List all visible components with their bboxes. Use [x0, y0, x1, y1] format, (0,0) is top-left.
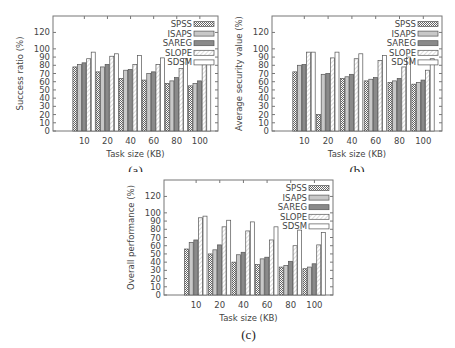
legend-label: ISAPS	[283, 193, 307, 203]
x-tick-label: 10	[191, 300, 202, 310]
bar-sareg-10	[194, 240, 198, 295]
legend-swatch-isaps	[194, 31, 214, 36]
x-tick-label: 100	[306, 300, 322, 310]
bar-sareg-10	[82, 63, 86, 131]
legend-label: SDSM	[391, 57, 416, 67]
legend-label: SAREG	[278, 202, 307, 212]
legend-swatch-slope	[194, 50, 214, 55]
bar-sareg-40	[128, 69, 132, 131]
legend-label: SAREG	[387, 38, 416, 48]
bar-sdsm-100	[207, 60, 211, 131]
bar-spss-100	[412, 84, 416, 131]
bar-spss-20	[208, 254, 212, 295]
y-axis-label: Success ratio (%)	[15, 37, 25, 111]
legend-label: SLOPE	[389, 48, 416, 58]
y-tick-label: 100	[145, 208, 161, 218]
bar-sdsm-20	[227, 220, 231, 295]
bar-spss-60	[364, 81, 368, 131]
bar-sareg-60	[373, 78, 377, 131]
x-tick-label: 60	[148, 136, 159, 146]
bar-sareg-40	[241, 252, 245, 295]
bar-slope-20	[330, 58, 334, 131]
x-tick-label: 20	[214, 300, 225, 310]
bar-sareg-20	[105, 64, 109, 131]
bar-sdsm-20	[114, 54, 118, 131]
x-tick-label: 60	[370, 136, 381, 146]
bar-spss-100	[303, 269, 307, 295]
bar-slope-10	[87, 59, 91, 131]
bar-sareg-100	[312, 264, 316, 295]
bar-isaps-60	[260, 259, 264, 295]
x-tick-label: 20	[102, 136, 113, 146]
bar-spss-20	[96, 72, 100, 131]
x-tick-label: 40	[346, 136, 357, 146]
bar-sdsm-10	[91, 52, 95, 131]
bar-spss-80	[388, 83, 392, 131]
legend-swatch-sdsm	[194, 60, 214, 65]
legend-swatch-spss	[309, 186, 329, 191]
y-tick-label: 120	[253, 27, 269, 37]
bar-slope-40	[354, 59, 358, 131]
bar-sareg-10	[302, 64, 306, 131]
bar-spss-10	[293, 72, 297, 131]
bar-isaps-100	[193, 83, 197, 131]
legend-swatch-slope	[309, 214, 329, 219]
bar-slope-80	[402, 67, 406, 131]
y-tick-label: 120	[145, 191, 161, 201]
legend: SPSSISAPSSAREGSLOPESDSM	[163, 19, 214, 67]
x-tick-label: 40	[238, 300, 249, 310]
legend-swatch-sdsm	[418, 60, 438, 65]
figure-caption: (c)	[241, 327, 255, 342]
legend-label: SPSS	[171, 19, 192, 29]
legend: SPSSISAPSSAREGSLOPESDSM	[387, 19, 438, 67]
bar-isaps-60	[369, 79, 373, 131]
legend-label: SLOPE	[280, 212, 307, 222]
x-axis-label: Task size (KB)	[327, 149, 386, 159]
bar-spss-80	[165, 83, 169, 131]
legend-swatch-sareg	[309, 205, 329, 210]
bar-sareg-40	[350, 74, 354, 131]
bar-slope-100	[202, 64, 206, 131]
bar-isaps-40	[237, 255, 241, 295]
chart-a-panel: 01020304050607080901001201020406080100Ta…	[0, 0, 228, 172]
x-tick-label: 10	[79, 136, 90, 146]
y-axis-label: Overall performance (%)	[126, 185, 136, 290]
bar-sdsm-60	[161, 58, 165, 131]
bar-slope-100	[317, 245, 321, 295]
bar-sdsm-40	[137, 55, 141, 131]
bar-sareg-100	[421, 80, 425, 131]
bar-spss-20	[317, 115, 321, 131]
bar-isaps-20	[321, 74, 325, 131]
bar-sareg-80	[174, 78, 178, 131]
x-tick-label: 80	[171, 136, 182, 146]
y-tick-label: 100	[34, 44, 50, 54]
legend-swatch-isaps	[418, 31, 438, 36]
bar-isaps-40	[345, 77, 349, 131]
bar-sdsm-80	[184, 59, 188, 131]
bar-slope-100	[426, 70, 430, 131]
bar-isaps-20	[101, 67, 105, 131]
bar-sdsm-60	[274, 227, 278, 295]
bar-isaps-10	[297, 65, 301, 131]
legend: SPSSISAPSSAREGSLOPESDSM	[278, 183, 329, 231]
legend-label: ISAPS	[392, 29, 416, 39]
x-tick-label: 60	[262, 300, 273, 310]
legend-swatch-sdsm	[309, 224, 329, 229]
bar-sareg-20	[217, 245, 221, 295]
bar-slope-40	[133, 64, 137, 131]
bar-slope-40	[246, 231, 250, 295]
bar-slope-60	[269, 240, 273, 295]
bar-sareg-100	[198, 81, 202, 131]
bar-sdsm-100	[430, 59, 434, 131]
bar-sareg-60	[151, 72, 155, 131]
x-tick-label: 40	[125, 136, 136, 146]
legend-label: ISAPS	[168, 29, 192, 39]
legend-label: SDSM	[167, 57, 192, 67]
bar-slope-20	[222, 227, 226, 295]
legend-swatch-slope	[418, 50, 438, 55]
bar-spss-60	[142, 80, 146, 131]
bar-spss-100	[188, 86, 192, 131]
y-axis-label: Average security value (%)	[234, 16, 244, 131]
bar-sdsm-10	[203, 216, 207, 295]
legend-label: SLOPE	[165, 48, 192, 58]
